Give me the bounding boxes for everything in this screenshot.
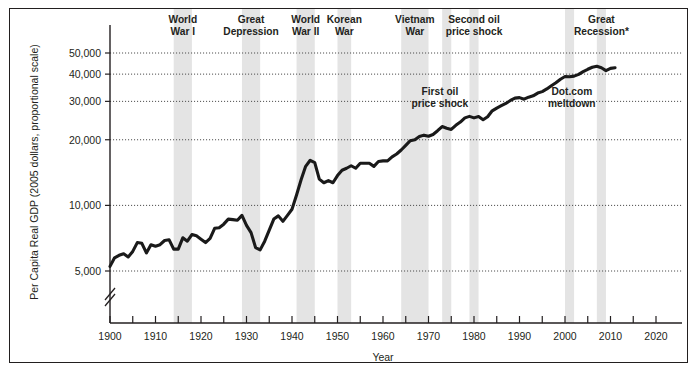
x-tick-label: 1960 [371,330,395,342]
event-label-line1: Great [238,14,265,25]
event-label-line1: World [291,14,320,25]
x-tick-label: 1950 [326,330,350,342]
recession-band [565,9,574,323]
gridlines [110,53,682,271]
x-tick-label: 2000 [553,330,577,342]
event-label-line2: price shock [446,26,503,37]
event-label-line2: War [335,26,354,37]
x-tick-label: 2020 [644,330,668,342]
event-label-line1: Second oil [448,14,500,25]
inline-annotation-line2: meltdown [548,98,596,109]
event-label-line1: World [168,14,197,25]
event-label-line1: Great [588,14,615,25]
figure-root: 5,00010,00020,00030,00040,00050,000 1900… [0,0,697,387]
event-labels: WorldWar IGreatDepressionWorldWar IIKore… [168,14,628,37]
recession-band [242,9,260,323]
recession-band [174,9,192,323]
chart-frame: 5,00010,00020,00030,00040,00050,000 1900… [9,8,688,363]
event-label-line2: Depression [223,26,278,37]
x-tick-label: 1990 [508,330,532,342]
event-label-line1: Korean [327,14,362,25]
x-tick-label: 1980 [462,330,486,342]
x-tick-label: 1900 [98,330,122,342]
inline-annotation-line2: price shock [412,98,469,109]
y-tick-label: 10,000 [69,199,101,211]
x-tick-label: 1930 [235,330,259,342]
y-tick-label: 5,000 [75,265,101,277]
x-tick-label: 1910 [144,330,168,342]
y-tick-label: 20,000 [69,134,101,146]
recession-band [469,9,478,323]
gdp-line-chart: 5,00010,00020,00030,00040,00050,000 1900… [10,9,687,362]
y-axis-title: Per Capita Real GDP (2005 dollars, propo… [28,44,40,299]
y-tick-label: 30,000 [69,95,101,107]
x-tick-label: 1940 [280,330,304,342]
recession-band [401,9,428,323]
x-axis-title: Year [372,351,394,362]
y-tick-label: 40,000 [69,68,101,80]
recession-band [442,9,451,323]
event-label-line2: Recession* [574,26,629,37]
recession-bands [174,9,606,323]
y-tick-label: 50,000 [69,47,101,59]
inline-annotation-line1: Dot.com [551,86,592,97]
inline-annotation-line1: First oil [421,86,458,97]
event-label-line2: War II [292,26,320,37]
recession-band [597,9,606,323]
x-tick-label: 2010 [599,330,623,342]
event-label-line2: War [405,26,424,37]
event-label-line2: War I [171,26,196,37]
event-label-line1: Vietnam [395,14,434,25]
x-tick-label: 1970 [417,330,441,342]
x-tick-labels: 1900191019201930194019501960197019801990… [98,330,668,342]
y-tick-labels: 5,00010,00020,00030,00040,00050,000 [69,47,101,277]
x-tick-label: 1920 [189,330,213,342]
